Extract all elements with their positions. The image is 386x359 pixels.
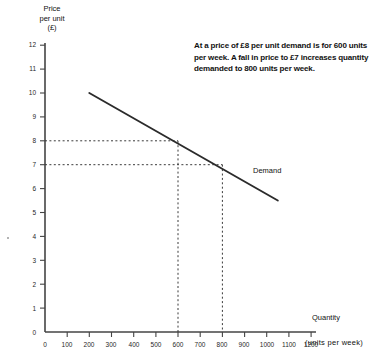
x-tick-label: 100: [57, 341, 77, 348]
y-tick-label: 10: [20, 89, 36, 96]
x-tick-label: 800: [212, 341, 232, 348]
x-tick-label: 0: [37, 341, 53, 348]
y-tick-label: 9: [20, 113, 36, 120]
x-axis-title-main: Quantity: [312, 313, 340, 323]
y-tick-label: 6: [20, 185, 36, 192]
x-tick-label: 1000: [255, 341, 279, 348]
y-tick-label: 2: [20, 281, 36, 288]
y-tick-label: 8: [20, 137, 36, 144]
y-axis-title-line1: Price: [24, 4, 80, 14]
y-tick-label: 5: [20, 209, 36, 216]
y-axis-title-line2: per unit: [24, 14, 80, 24]
y-axis-title: Price per unit (£): [24, 4, 80, 33]
demand-curve-chart: Price per unit (£) Quantity (units per w…: [0, 0, 386, 359]
y-tick-label: 4: [20, 233, 36, 240]
scan-artifact-speck: [7, 237, 9, 239]
y-tick-label: 1: [20, 305, 36, 312]
x-tick-label: 300: [101, 341, 121, 348]
y-tick-label: 11: [20, 65, 36, 72]
x-tick-label: 600: [168, 341, 188, 348]
y-tick-label: 7: [20, 161, 36, 168]
x-tick-label: 1100: [277, 341, 301, 348]
x-tick-label: 1200: [299, 341, 323, 348]
x-tick-label: 500: [146, 341, 166, 348]
y-tick-label: 0: [20, 329, 36, 336]
demand-curve-label: Demand: [253, 166, 281, 175]
demand-curve-line: [89, 93, 277, 201]
x-tick-label: 900: [234, 341, 254, 348]
y-tick-label: 3: [20, 257, 36, 264]
x-tick-label: 400: [124, 341, 144, 348]
x-tick-label: 200: [79, 341, 99, 348]
y-tick-label: 12: [20, 41, 36, 48]
chart-annotation-text: At a price of £8 per unit demand is for …: [194, 40, 376, 75]
y-axis-title-line3: (£): [24, 23, 80, 33]
x-tick-label: 700: [190, 341, 210, 348]
